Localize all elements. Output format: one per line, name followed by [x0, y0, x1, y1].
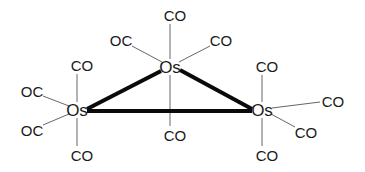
carbonyl-ligand-label: CO [256, 58, 279, 75]
os3-co12-structure-diagram: COOCCOCOCOOCOCCOCOCOCOCO OsOsOs [0, 0, 365, 172]
carbonyl-ligand-label: OC [21, 122, 44, 139]
carbonyl-ligand-label: OC [21, 83, 44, 100]
background [0, 0, 365, 172]
carbonyl-ligand-label: CO [71, 147, 94, 164]
osmium-atom-label-left: Os [66, 101, 88, 120]
carbonyl-ligand-label: CO [256, 147, 279, 164]
carbonyl-ligand-label: CO [71, 57, 94, 74]
carbonyl-ligand-label: CO [295, 124, 318, 141]
carbonyl-ligand-label: CO [164, 127, 187, 144]
carbonyl-ligand-label: CO [322, 93, 345, 110]
carbonyl-ligand-label: CO [164, 7, 187, 24]
osmium-atom-label-top: Os [159, 58, 181, 77]
carbonyl-ligand-label: OC [110, 32, 133, 49]
carbonyl-ligand-label: CO [210, 32, 233, 49]
osmium-atom-label-right: Os [251, 101, 273, 120]
